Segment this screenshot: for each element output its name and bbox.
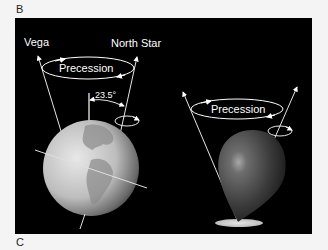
- spinning-top-body: [218, 130, 285, 222]
- precession-figure: Vega North Star Precession 23.5° Precess…: [15, 18, 312, 234]
- top-precession-label: Precession: [211, 103, 265, 115]
- earth-axis-bottom: [80, 214, 85, 229]
- tilt-angle-arc: [91, 100, 123, 106]
- earth-diagram: Vega North Star Precession 23.5°: [24, 36, 161, 229]
- tilt-angle-label: 23.5°: [95, 90, 117, 100]
- panel-label-b: B: [16, 3, 23, 15]
- spin-ellipse: [115, 116, 139, 126]
- north-star-label: North Star: [111, 37, 161, 49]
- panel-label-c: C: [16, 236, 24, 248]
- spinning-top-diagram: Precession: [183, 87, 297, 227]
- vega-label: Vega: [24, 36, 50, 48]
- earth-precession-label: Precession: [59, 62, 113, 74]
- top-spin-ellipse: [268, 126, 292, 136]
